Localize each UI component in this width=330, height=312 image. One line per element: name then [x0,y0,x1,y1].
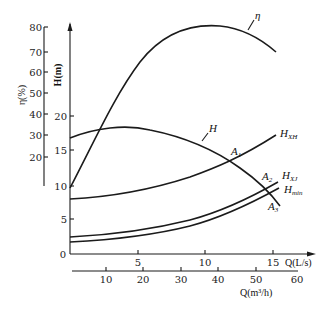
q-m3h-tick-40: 40 [212,274,225,285]
q-ls-axis: 5 10 15 Q(L/s) [70,250,316,269]
eta-tick-80: 80 [29,22,42,33]
eta-axis: 80 70 60 50 40 30 20 η(%) [16,22,48,186]
a2-label: A2 [261,170,273,184]
h-tick-20: 20 [54,111,67,122]
q-ls-tick-10: 10 [199,257,212,268]
a1-label: A1 [230,145,241,159]
figure-caption-truncated [95,304,245,312]
h-curve [70,127,280,206]
h-tick-5: 5 [61,214,67,225]
q-m3h-tick-10: 10 [100,274,113,285]
hxh-curve-label: HXH [279,127,298,141]
q-m3h-axis-label: Q(m³/h) [240,287,272,299]
h-tick-15: 15 [54,145,67,156]
h-leader [202,133,208,141]
eta-tick-40: 40 [29,109,42,120]
q-m3h-tick-30: 30 [175,274,188,285]
eta-curve-label: η [255,9,260,21]
hxj-curve [70,182,278,237]
hxh-curve [70,135,276,199]
q-m3h-tick-20: 20 [137,274,150,285]
h-curve-label: H [208,122,218,134]
q-ls-axis-label: Q(L/s) [285,257,312,269]
h-tick-0: 0 [60,249,66,260]
pump-performance-chart: 80 70 60 50 40 30 20 η(%) 20 15 10 5 0 H… [0,0,330,312]
h-axis: 20 15 10 5 0 H(m) [52,22,74,260]
q-ls-tick-15: 15 [267,257,280,268]
q-m3h-axis: 10 20 30 40 50 60 Q(m³/h) [72,267,303,299]
eta-tick-60: 60 [29,67,42,78]
eta-tick-50: 50 [29,88,42,99]
q-ls-tick-5: 5 [135,257,141,268]
eta-tick-20: 20 [29,152,42,163]
eta-leader [248,20,254,30]
h-axis-label: H(m) [52,64,64,87]
hxj-curve-label: HXJ [281,169,298,183]
eta-tick-70: 70 [29,47,42,58]
q-m3h-tick-60: 60 [291,274,304,285]
eta-axis-label: η(%) [16,85,28,105]
eta-curve [70,26,276,188]
eta-tick-30: 30 [29,130,42,141]
q-m3h-tick-50: 50 [250,274,263,285]
h-tick-10: 10 [54,181,67,192]
hmin-curve-label: Hmin [283,183,303,197]
